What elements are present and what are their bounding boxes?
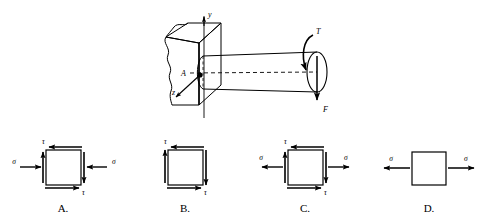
circular-shaft	[190, 52, 327, 92]
sigma-label-left-d: σ	[389, 154, 393, 163]
tau-label-bottom-a: τ	[82, 188, 85, 197]
z-axis: z	[171, 75, 200, 97]
option-label-b: B.	[180, 202, 190, 214]
sigma-label-right-d: σ	[464, 154, 468, 163]
stress-square-c	[288, 150, 323, 185]
engineering-figure-canvas: y A	[0, 0, 488, 220]
z-axis-label: z	[171, 88, 176, 97]
option-label-d: D.	[424, 202, 435, 214]
torque-arrow: T	[303, 27, 321, 70]
option-label-a: A.	[58, 202, 69, 214]
option-label-c: C.	[300, 202, 310, 214]
tau-label-top-a: τ	[42, 137, 45, 146]
sigma-label-left-c: σ	[259, 153, 263, 162]
stress-square-d	[412, 152, 446, 185]
y-axis: y	[204, 10, 212, 118]
sigma-label-left-a: σ	[12, 157, 16, 166]
y-axis-label: y	[207, 10, 212, 19]
stress-element-option-c[interactable]: σ σ τ τ C.	[259, 137, 349, 214]
figure-root: y A	[0, 0, 488, 220]
torque-label: T	[316, 27, 321, 36]
sigma-label-right-c: σ	[344, 153, 348, 162]
stress-element-option-d[interactable]: σ σ D.	[384, 152, 474, 214]
point-a-label: A	[180, 69, 186, 78]
tau-label-bottom-c: τ	[324, 188, 327, 197]
stress-element-option-a[interactable]: σ σ τ τ A.	[12, 137, 116, 214]
sigma-label-right-a: σ	[112, 157, 116, 166]
cantilever-shaft-diagram: y A	[165, 10, 328, 118]
tau-label-top-c: τ	[284, 137, 287, 146]
tau-label-top-b: τ	[164, 137, 167, 146]
stress-element-option-b[interactable]: τ τ B.	[164, 137, 207, 214]
stress-square-a	[46, 150, 81, 185]
stress-square-b	[168, 150, 203, 185]
tau-label-bottom-b: τ	[204, 188, 207, 197]
force-label: F	[322, 105, 328, 114]
